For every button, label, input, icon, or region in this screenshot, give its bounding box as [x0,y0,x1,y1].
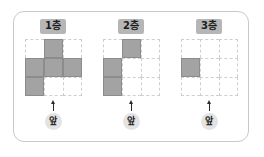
grid-cell-empty [181,39,200,58]
grid-cell-empty [141,39,160,58]
grid-cell-empty [200,77,219,96]
grid-cell-filled [44,39,63,58]
grid-cell-empty [200,58,219,77]
front-label-badge: 앞 [123,113,140,130]
front-label-badge: 앞 [201,113,218,130]
grid-cell-empty [63,39,82,58]
grid-cell-empty [219,58,238,77]
up-arrow-shaft [131,103,132,111]
grid-cell-empty [122,77,141,96]
grid-cell-empty [219,39,238,58]
floor-panel: 3층앞 [175,19,243,130]
grid-cell-empty [103,39,122,58]
floor-label-badge: 1층 [40,19,66,34]
floor-panels-container: 1층앞2층앞3층앞 [14,12,248,141]
front-indicator: 앞 [103,100,160,130]
up-arrow-icon [128,100,135,111]
grid-cell-empty [141,58,160,77]
grid-cell-filled [122,39,141,58]
grid-cell-filled [44,58,63,77]
grid-cell-empty [63,77,82,96]
up-arrow-shaft [209,103,210,111]
floor-panel: 1층앞 [19,19,87,130]
front-label-badge: 앞 [45,113,62,130]
floor-label-badge: 3층 [196,19,222,34]
grid-cell-empty [200,39,219,58]
up-arrow-shaft [53,103,54,111]
grid-cell-empty [141,77,160,96]
front-indicator: 앞 [25,100,82,130]
floor-grid [181,39,238,96]
grid-cell-empty [25,39,44,58]
floor-grid [103,39,160,96]
grid-cell-filled [103,77,122,96]
grid-cell-filled [25,77,44,96]
grid-cell-empty [122,58,141,77]
grid-cell-filled [181,58,200,77]
front-indicator: 앞 [181,100,238,130]
grid-cell-empty [181,77,200,96]
floor-panel: 2층앞 [97,19,165,130]
floor-label-badge: 2층 [118,19,144,34]
grid-cell-empty [219,77,238,96]
grid-cell-filled [63,58,82,77]
grid-cell-empty [44,77,63,96]
up-arrow-icon [50,100,57,111]
up-arrow-icon [206,100,213,111]
grid-cell-filled [103,58,122,77]
floor-grid [25,39,82,96]
grid-cell-filled [25,58,44,77]
figure-frame: 1층앞2층앞3층앞 [13,11,249,142]
